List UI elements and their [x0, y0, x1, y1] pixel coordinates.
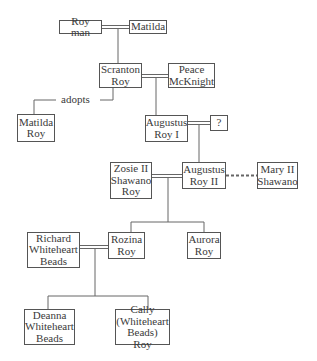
person-augustus-roy-i: Augustus Roy I: [145, 115, 188, 142]
person-label: Beads: [36, 333, 63, 345]
person-label: Scranton: [101, 64, 140, 76]
person-deanna-whiteheart-beads: Deanna Whiteheart Beads: [24, 309, 75, 345]
person-label: Cally: [131, 304, 155, 316]
person-aurora-roy: Aurora Roy: [187, 232, 221, 259]
person-cally-whiteheart-beads-roy: Cally (Whiteheart Beads) Roy: [115, 309, 170, 345]
person-label: Beads) Roy: [118, 327, 167, 350]
person-label: Roy man: [62, 16, 99, 39]
person-label: Beads: [40, 256, 67, 268]
person-label: Roy: [117, 246, 135, 258]
person-rozina-roy: Rozina Roy: [108, 232, 145, 259]
person-matilda-roy: Matilda Roy: [17, 114, 55, 142]
person-richard-whiteheart-beads: Richard Whiteheart Beads: [27, 232, 80, 268]
person-roy-man: Roy man: [59, 20, 102, 34]
person-peace-mcknight: Peace McKnight: [168, 63, 215, 88]
person-label: Matilda: [131, 21, 165, 33]
person-label: Roy: [195, 246, 213, 258]
person-matilda: Matilda: [129, 20, 167, 34]
person-label: Roy: [122, 186, 140, 198]
person-label: Roy II: [190, 176, 218, 188]
person-label: Augustus: [146, 117, 188, 129]
adopts-label: adopts: [58, 93, 93, 105]
person-label: Shawano: [257, 176, 297, 188]
person-label: McKnight: [169, 76, 214, 88]
person-label: ?: [217, 117, 222, 129]
person-label: Peace: [179, 64, 205, 76]
person-label: Roy: [111, 76, 129, 88]
person-augustus-roy-ii: Augustus Roy II: [182, 162, 226, 189]
person-label: Augustus: [183, 164, 225, 176]
person-mary-ii-shawano: Mary II Shawano: [257, 162, 298, 189]
person-label: Roy: [27, 128, 45, 140]
person-label: Aurora: [188, 234, 219, 246]
person-unknown: ?: [210, 115, 228, 131]
person-label: Rozina: [111, 234, 142, 246]
person-zosie-ii-shawano-roy: Zosie II Shawano Roy: [110, 162, 152, 199]
person-scranton-roy: Scranton Roy: [99, 63, 142, 88]
person-label: Roy I: [154, 129, 179, 141]
person-label: Mary II: [261, 164, 295, 176]
